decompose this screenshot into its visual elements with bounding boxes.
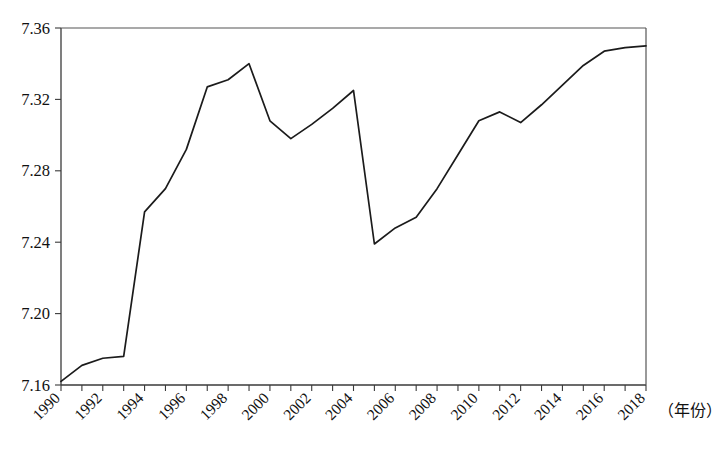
y-tick-label: 7.32 bbox=[21, 90, 50, 109]
y-tick-label: 7.24 bbox=[21, 233, 50, 252]
y-tick-label: 7.16 bbox=[21, 376, 50, 395]
y-tick-label: 7.36 bbox=[21, 19, 50, 38]
y-tick-label: 7.28 bbox=[21, 161, 50, 180]
x-axis-unit-label: （年份） bbox=[658, 402, 722, 419]
line-chart: 7.167.207.247.287.327.36 199019921994199… bbox=[0, 0, 722, 476]
chart-container: 7.167.207.247.287.327.36 199019921994199… bbox=[0, 0, 722, 476]
y-tick-label: 7.20 bbox=[21, 304, 50, 323]
chart-background bbox=[0, 0, 722, 476]
